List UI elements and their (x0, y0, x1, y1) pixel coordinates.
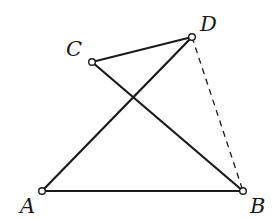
segment-CD (92, 37, 192, 62)
segment-CB (92, 62, 243, 191)
label-D: D (199, 12, 217, 36)
point-B (240, 188, 247, 195)
point-A (39, 188, 46, 195)
point-D (189, 34, 196, 41)
geometry-diagram: A B C D (0, 0, 276, 218)
point-C (89, 59, 96, 66)
label-C: C (66, 37, 82, 61)
label-A: A (18, 194, 35, 218)
label-B: B (249, 194, 265, 218)
segment-AD (42, 37, 192, 191)
